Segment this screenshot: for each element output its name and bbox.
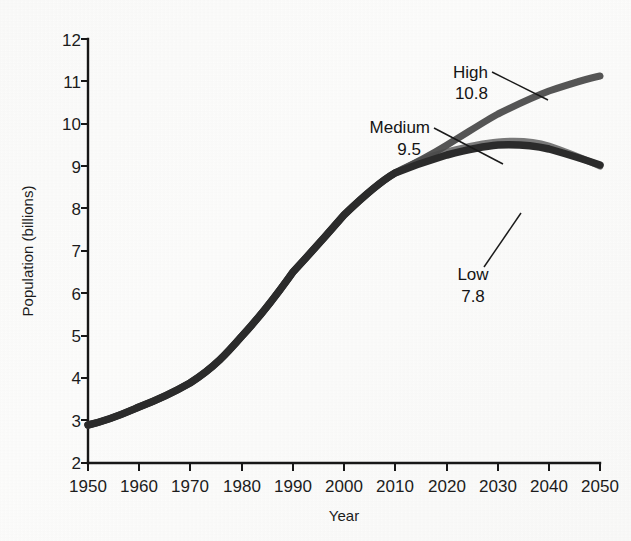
annotation-high: High 10.8 xyxy=(453,63,488,103)
x-tick-label: 1950 xyxy=(69,477,107,496)
series-line-low xyxy=(88,141,600,425)
y-tick-label: 11 xyxy=(63,73,81,92)
x-tick-label: 2050 xyxy=(581,477,619,496)
annotation-medium-value: 9.5 xyxy=(397,140,421,159)
annotation-high-label: High xyxy=(453,63,488,82)
y-tick-label: 4 xyxy=(72,369,81,388)
y-tick-label: 9 xyxy=(72,158,81,177)
x-axis-tick-labels: 1950 1960 1970 1980 1990 2000 2010 2020 … xyxy=(69,477,619,496)
y-tick-label: 7 xyxy=(72,242,81,261)
series-line-high xyxy=(88,145,600,425)
population-projection-chart: 12 11 10 9 8 7 6 5 4 3 2 xyxy=(0,0,631,541)
x-tick-label: 2030 xyxy=(479,477,517,496)
y-axis-title: Population (billions) xyxy=(19,186,36,317)
y-tick-label: 5 xyxy=(72,327,81,346)
annotation-medium: Medium 9.5 xyxy=(370,118,430,159)
annotation-low-label: Low xyxy=(457,265,489,284)
annotation-high-value: 10.8 xyxy=(455,84,488,103)
annotation-low: Low 7.8 xyxy=(457,265,489,306)
chart-page: 12 11 10 9 8 7 6 5 4 3 2 xyxy=(0,0,631,541)
x-tick-label: 2010 xyxy=(376,477,414,496)
y-tick-label: 12 xyxy=(62,31,81,50)
x-tick-label: 2020 xyxy=(428,477,466,496)
annotation-medium-label: Medium xyxy=(370,118,430,137)
x-tick-label: 2000 xyxy=(325,477,363,496)
annotation-low-value: 7.8 xyxy=(461,287,485,306)
leader-line-high xyxy=(492,72,548,100)
y-tick-label: 3 xyxy=(72,412,81,431)
x-tick-label: 2040 xyxy=(530,477,568,496)
series-line-medium xyxy=(88,76,600,425)
y-axis-tick-labels: 12 11 10 9 8 7 6 5 4 3 2 xyxy=(62,31,81,473)
y-tick-label: 10 xyxy=(62,115,81,134)
y-tick-label: 2 xyxy=(72,454,81,473)
x-tick-label: 1970 xyxy=(171,477,209,496)
x-axis-title: Year xyxy=(329,507,359,524)
y-tick-label: 8 xyxy=(72,200,81,219)
x-tick-label: 1960 xyxy=(120,477,158,496)
x-tick-label: 1990 xyxy=(274,477,312,496)
x-tick-label: 1980 xyxy=(223,477,261,496)
leader-line-low xyxy=(484,213,521,267)
y-tick-label: 6 xyxy=(72,285,81,304)
